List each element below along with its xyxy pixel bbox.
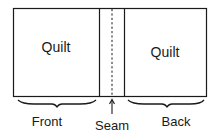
front-panel-label: Quilt [42,39,71,55]
seam-arrow-icon [110,100,115,115]
front-label: Front [32,114,63,129]
seam-label: Seam [95,118,129,133]
back-panel-label: Quilt [151,44,180,60]
front-brace-icon [18,100,96,107]
back-label: Back [162,114,191,129]
back-brace-icon [128,100,204,107]
quilt-seam-diagram: Quilt Quilt Front Seam Back [0,0,219,138]
